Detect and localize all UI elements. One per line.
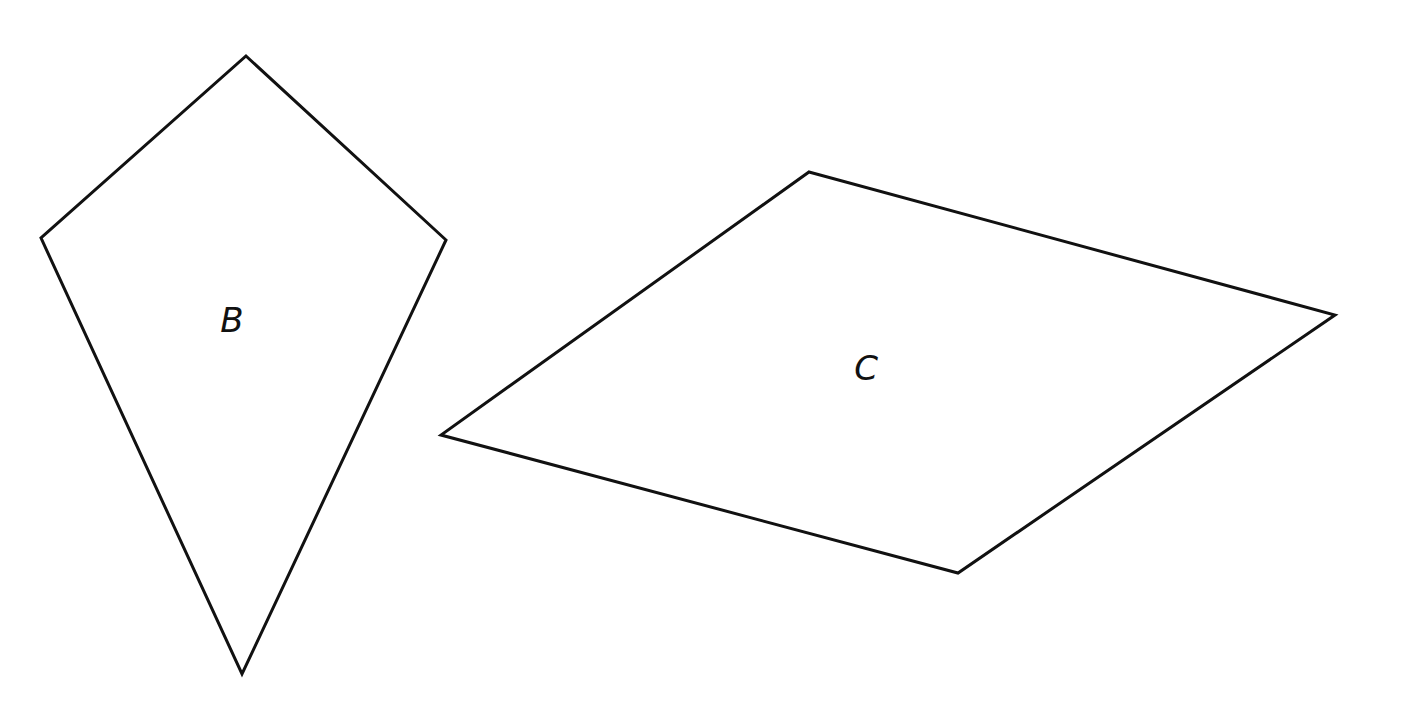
shape-b: B — [41, 56, 446, 674]
parallelogram-c-outline — [441, 172, 1335, 573]
kite-b-outline — [41, 56, 446, 674]
shape-c: C — [441, 172, 1335, 573]
shape-b-label: B — [220, 300, 243, 340]
shape-c-label: C — [854, 348, 878, 388]
diagram-canvas: B C — [0, 0, 1421, 722]
